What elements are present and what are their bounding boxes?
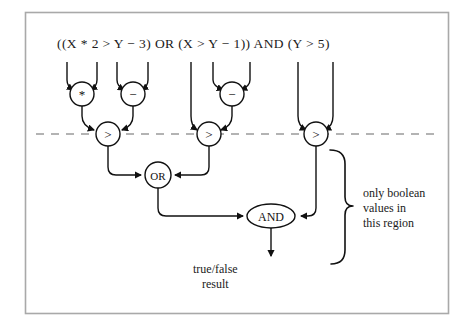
edge-x-to-gt2	[191, 62, 197, 130]
boolean-region-brace	[330, 150, 353, 264]
node-gt1[interactable]: >	[96, 122, 120, 146]
node-sub1-label: −	[129, 87, 136, 102]
node-mul-label: *	[79, 87, 86, 102]
figure-canvas: * − − > > >	[0, 0, 472, 326]
result-annotation: true/false result	[193, 262, 238, 292]
boolean-region-annotation: only boolean values in this region	[363, 186, 425, 231]
node-or-label: OR	[150, 170, 166, 182]
node-mul[interactable]: *	[70, 82, 94, 106]
edge-group	[67, 62, 333, 256]
node-gt2[interactable]: >	[197, 122, 221, 146]
node-gt2-label: >	[205, 127, 212, 142]
edge-gt3-to-and	[301, 146, 316, 216]
edge-y-to-sub1	[117, 62, 124, 90]
node-sub2[interactable]: −	[220, 82, 244, 106]
node-sub1[interactable]: −	[121, 82, 145, 106]
node-gt1-label: >	[104, 127, 111, 142]
expression-text: ((X * 2 > Y − 3) OR (X > Y − 1)) AND (Y …	[57, 36, 330, 52]
edge-1-to-sub2	[241, 62, 250, 90]
edge-mul-to-gt1	[82, 106, 94, 130]
edge-sub2-to-gt2	[221, 106, 232, 130]
edge-y-to-gt3	[298, 62, 306, 130]
node-sub2-label: −	[228, 87, 235, 102]
edge-2-to-mul	[91, 62, 97, 90]
edge-3-to-sub1	[142, 62, 148, 90]
edge-5-to-gt3	[325, 62, 333, 130]
edge-gt2-to-or	[175, 146, 209, 175]
node-gt3[interactable]: >	[304, 122, 328, 146]
node-gt3-label: >	[312, 127, 319, 142]
edge-or-to-and	[158, 188, 243, 216]
node-and-label: AND	[258, 210, 284, 224]
edge-x-to-mul	[67, 62, 73, 90]
edge-gt1-to-or	[108, 146, 141, 175]
node-or[interactable]: OR	[145, 162, 171, 188]
node-and[interactable]: AND	[247, 204, 295, 228]
edge-y-to-sub2	[213, 62, 223, 90]
edge-sub1-to-gt1	[122, 106, 133, 130]
